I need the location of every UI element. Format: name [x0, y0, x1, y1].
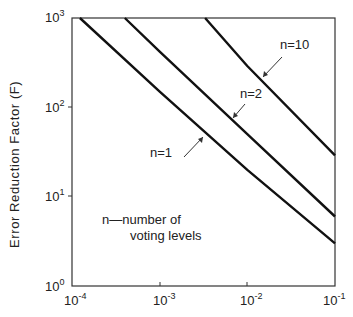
x-tick-label: 10-1	[323, 291, 345, 308]
plot-frame	[72, 18, 335, 286]
legend-line-1: n—number of	[102, 212, 181, 227]
y-tick-label: 103	[45, 8, 64, 25]
y-tick-label: 100	[45, 277, 64, 294]
curve-n-10	[205, 18, 335, 155]
y-axis: 103 102 101 100 Error Reduction Factor (…	[7, 8, 72, 294]
label-n2: n=2	[240, 86, 262, 101]
label-n10: n=10	[280, 37, 309, 52]
chart: 103 102 101 100 Error Reduction Factor (…	[0, 0, 353, 317]
label-n1: n=1	[150, 145, 172, 160]
x-tick-label: 10-2	[240, 291, 262, 308]
y-tick-label: 102	[45, 98, 64, 115]
y-axis-label: Error Reduction Factor (F)	[7, 81, 22, 248]
legend-line-2: voting levels	[130, 228, 202, 243]
x-tick-label: 10-3	[153, 291, 175, 308]
x-tick-label: 10-4	[64, 291, 86, 308]
y-tick-label: 101	[45, 187, 64, 204]
